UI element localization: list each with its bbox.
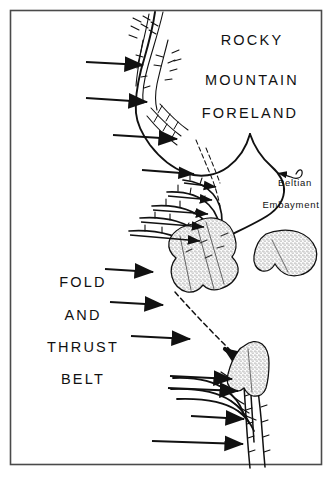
compression-arrow-10 [105,269,153,272]
salient-internal-dashed-traces [196,140,220,206]
label-foreland: FORELAND [202,105,299,121]
stippled-body-lower [227,342,269,397]
stippled-body-central [169,218,238,292]
label-belt: BELT [61,371,105,387]
compression-arrow-16 [152,441,243,444]
region-labels: ROCKY MOUNTAIN FORELAND [202,32,299,121]
compression-arrow-2 [86,98,147,102]
label-thrust: THRUST [47,339,119,355]
feature-labels: Beltian Embayment [263,177,320,210]
compression-arrow-6 [168,196,212,200]
tectonic-map-svg: ROCKY MOUNTAIN FORELAND FOLD AND THRUST … [0,0,334,479]
label-fold: FOLD [59,274,106,290]
label-beltian: Beltian [278,177,312,188]
compression-arrow-14 [168,388,238,391]
label-and: AND [64,307,101,323]
label-rocky: ROCKY [221,32,284,48]
figure-root: ROCKY MOUNTAIN FORELAND FOLD AND THRUST … [0,0,334,479]
compression-arrow-1 [86,62,143,65]
compression-arrow-11 [110,302,163,305]
stippled-body-right [254,230,317,275]
label-embayment: Embayment [263,199,320,210]
label-mountain: MOUNTAIN [205,72,299,88]
compression-arrow-4 [142,170,194,174]
compression-arrow-7 [153,210,208,214]
compression-arrow-15 [191,416,244,419]
compression-arrow-12 [131,336,190,339]
belt-labels: FOLD AND THRUST BELT [47,274,119,387]
